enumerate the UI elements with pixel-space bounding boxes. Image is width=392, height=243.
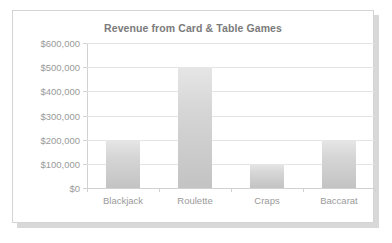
y-axis-label: $400,000	[40, 86, 80, 97]
bar-band	[159, 43, 231, 188]
bar-blackjack[interactable]	[106, 140, 140, 188]
x-axis-tick	[87, 188, 88, 192]
screenshot-root: Revenue from Card & Table Games $0$100,0…	[0, 0, 392, 243]
x-axis-label-blackjack: Blackjack	[103, 195, 143, 206]
plot-area: $0$100,000$200,000$300,000$400,000$500,0…	[87, 43, 375, 188]
x-axis-tick	[159, 188, 160, 192]
bar-band	[303, 43, 375, 188]
x-axis-label-roulette: Roulette	[177, 195, 212, 206]
bar-craps[interactable]	[250, 164, 284, 188]
x-axis-label-baccarat: Baccarat	[320, 195, 358, 206]
bar-band	[87, 43, 159, 188]
bar-band	[231, 43, 303, 188]
x-axis-tick	[375, 188, 376, 192]
y-axis-label: $500,000	[40, 62, 80, 73]
chart-title: Revenue from Card & Table Games	[13, 22, 373, 34]
y-axis-label: $300,000	[40, 110, 80, 121]
x-axis-tick	[231, 188, 232, 192]
y-axis-label: $200,000	[40, 134, 80, 145]
y-axis-label: $100,000	[40, 158, 80, 169]
bar-roulette[interactable]	[178, 67, 212, 188]
y-axis-label: $0	[69, 183, 80, 194]
bar-baccarat[interactable]	[322, 140, 356, 188]
x-axis-label-craps: Craps	[254, 195, 279, 206]
y-axis-label: $600,000	[40, 38, 80, 49]
x-axis-tick	[303, 188, 304, 192]
chart-card: Revenue from Card & Table Games $0$100,0…	[12, 10, 374, 223]
